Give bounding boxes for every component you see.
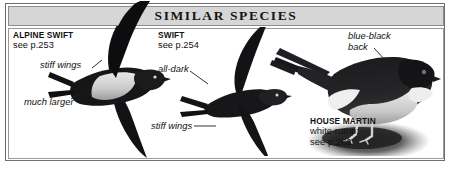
species-reference-house-martin-line-2: see p.282: [310, 137, 376, 148]
annotation-blue-black-back-line-1: blue-black: [348, 30, 391, 41]
panel-header-band: SIMILAR SPECIES: [8, 6, 444, 26]
page-title: SIMILAR SPECIES: [155, 8, 298, 24]
annotation-blue-black-back: blue-black back: [348, 31, 391, 52]
species-label-house-martin: HOUSE MARTIN white rump; see p.282: [310, 117, 376, 147]
species-name-alpine-swift: ALPINE SWIFT: [13, 31, 73, 40]
species-label-alpine-swift: ALPINE SWIFT see p.253: [13, 31, 73, 51]
species-reference-swift: see p.254: [158, 40, 199, 50]
annotation-much-larger: much larger: [24, 97, 74, 108]
species-label-swift: SWIFT see p.254: [158, 31, 199, 51]
similar-species-panel: SIMILAR SPECIES: [5, 3, 445, 161]
annotation-all-dark: all-dark: [158, 64, 189, 75]
annotation-stiff-wings-alpine: stiff wings: [40, 60, 81, 71]
species-reference-alpine-swift: see p.253: [13, 40, 73, 50]
annotation-stiff-wings-swift: stiff wings: [151, 121, 192, 132]
species-name-swift: SWIFT: [158, 31, 199, 40]
annotation-blue-black-back-line-2: back: [348, 41, 368, 52]
